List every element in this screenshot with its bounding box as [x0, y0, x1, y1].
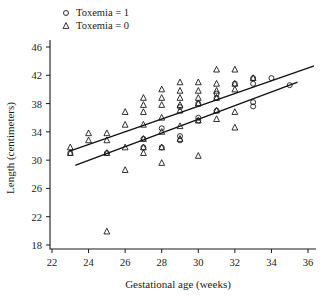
y-tick-label: 38	[32, 99, 43, 110]
data-point-triangle	[122, 121, 128, 127]
data-point-triangle	[141, 102, 147, 108]
data-point-triangle	[214, 116, 220, 122]
data-point-triangle	[232, 109, 238, 115]
data-point-triangle	[232, 66, 238, 72]
data-point-triangle	[104, 228, 110, 234]
data-point-triangle	[159, 160, 165, 166]
x-tick-label: 28	[156, 257, 167, 268]
regression-line	[76, 82, 297, 165]
x-tick-label: 36	[303, 257, 314, 268]
regression-line	[70, 66, 313, 151]
x-tick-label: 32	[230, 257, 241, 268]
data-point-triangle	[104, 130, 110, 136]
y-tick-label: 30	[32, 155, 43, 166]
x-tick-label: 24	[83, 257, 94, 268]
data-point-circle	[251, 81, 256, 86]
legend-marker-triangle	[63, 23, 69, 29]
data-point-triangle	[177, 95, 183, 101]
data-point-triangle	[141, 95, 147, 101]
x-tick-label: 34	[266, 257, 277, 268]
data-point-triangle	[141, 150, 147, 156]
x-tick-label: 26	[120, 257, 131, 268]
data-point-triangle	[86, 130, 92, 136]
data-point-triangle	[214, 80, 220, 86]
scatter-plot-figure: Toxemia = 1Toxemia = 0 2224262830323436 …	[0, 0, 330, 298]
x-tick-label: 30	[193, 257, 204, 268]
y-tick-label: 34	[32, 127, 43, 138]
y-tick-label: 46	[32, 42, 43, 53]
y-axis-title: Length (centimeters)	[4, 102, 17, 194]
data-point-triangle	[159, 86, 165, 92]
data-point-triangle	[159, 95, 165, 101]
x-axis-title: Gestational age (weeks)	[125, 278, 231, 291]
data-point-triangle	[122, 167, 128, 173]
data-point-triangle	[177, 88, 183, 94]
y-tick-label: 42	[32, 70, 43, 81]
data-point-triangle	[195, 79, 201, 85]
plot-canvas: Toxemia = 1Toxemia = 0 2224262830323436 …	[0, 0, 330, 298]
legend-marker-circle	[64, 11, 69, 16]
x-axis-tick-labels: 2224262830323436	[47, 257, 314, 268]
data-point-triangle	[141, 109, 147, 115]
data-point-triangle	[195, 88, 201, 94]
data-point-triangle	[177, 79, 183, 85]
legend-label: Toxemia = 0	[76, 20, 129, 31]
x-tick-label: 22	[47, 257, 58, 268]
data-point-triangle	[122, 109, 128, 115]
y-tick-label: 26	[32, 183, 43, 194]
legend-label: Toxemia = 1	[76, 7, 129, 18]
data-point-triangle	[159, 102, 165, 108]
y-tick-label: 18	[32, 240, 43, 251]
data-point-triangle	[232, 86, 238, 92]
data-point-triangle	[86, 137, 92, 143]
data-point-triangle	[214, 66, 220, 72]
data-points	[67, 66, 292, 234]
data-point-triangle	[195, 153, 201, 159]
legend: Toxemia = 1Toxemia = 0	[63, 7, 129, 31]
y-axis-tick-labels: 1822263034384246	[32, 42, 43, 251]
y-tick-label: 22	[32, 212, 43, 223]
data-point-triangle	[232, 124, 238, 130]
